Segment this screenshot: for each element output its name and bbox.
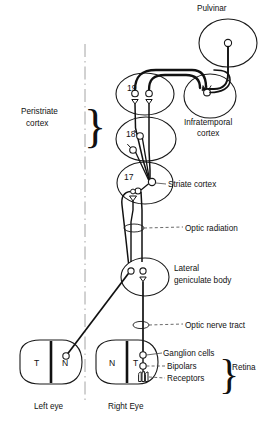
visual-pathway-diagram: Pulvinar Infratemporal cortex Peristriat… <box>0 0 273 434</box>
crossed-optic-fiber-to-left-eye <box>66 273 128 356</box>
ganglion-cells-label: Ganglion cells <box>163 349 214 358</box>
area-17-neuron-b-soma <box>135 188 141 194</box>
ganglion-cell-soma <box>140 352 146 358</box>
lateral-geniculate-label-line2: geniculate body <box>174 276 232 285</box>
retina-brace: } <box>219 351 239 397</box>
area-17-neuron-c-soma <box>131 189 136 194</box>
infratemporal-cortex-outline <box>184 74 236 118</box>
area-19-label: 19 <box>127 83 137 93</box>
lgn-input-terminal <box>140 277 146 282</box>
bipolars-label: Bipolars <box>167 362 197 371</box>
area-19-neuron-b-soma <box>146 90 153 97</box>
area-19-neuron-a-terminal <box>132 100 138 105</box>
area-17-input-terminal <box>130 196 137 201</box>
visual-pathway-svg: Pulvinar Infratemporal cortex Peristriat… <box>0 0 273 434</box>
area-17-neuron-a-soma <box>148 178 155 185</box>
pulvinar-neuron-soma <box>224 39 231 46</box>
infratemporal-cortex-label-line1: Infratemporal <box>184 118 232 127</box>
receptor-cell-3 <box>145 372 148 382</box>
area-19-outline <box>116 73 174 115</box>
area-17-label: 17 <box>124 172 134 182</box>
area-18-label: 18 <box>126 129 136 139</box>
fiber-17-to-19b <box>149 104 150 183</box>
receptor-cell-1 <box>139 372 142 382</box>
peristriate-cortex-label-line1: Peristriate <box>21 107 58 116</box>
striate-cortex-label: Striate cortex <box>168 180 216 189</box>
ganglion-cells-leader <box>146 353 162 355</box>
optic-radiation-label: Optic radiation <box>185 224 238 233</box>
receptors-leader <box>149 377 165 378</box>
optic-radiation-fiber-curved <box>122 192 131 264</box>
left-eye-temporal-label: T <box>34 358 40 368</box>
optic-nerve-tract-cuff <box>133 321 149 328</box>
infratemporal-cortex-label-line2: cortex <box>197 129 219 138</box>
optic-nerve-tract-leader <box>149 324 183 325</box>
right-eye-label: Right Eye <box>108 402 144 411</box>
optic-radiation-leader <box>144 227 183 228</box>
optic-radiation-cuff <box>124 224 144 232</box>
lateral-geniculate-label-line1: Lateral <box>174 264 199 273</box>
area-19-neuron-b-terminal <box>146 100 152 105</box>
pulvinar-label: Pulvinar <box>197 4 227 13</box>
bipolar-cell-soma <box>140 363 146 369</box>
right-eye-temporal-label: T <box>133 358 139 368</box>
receptor-cell-2 <box>142 372 145 382</box>
area-18-neuron-a-soma <box>137 133 144 140</box>
lgn-neuron-a-soma <box>128 268 134 274</box>
area19-to-infratemporal-projection-inner <box>149 75 200 90</box>
left-eye-nasal-label: N <box>62 358 68 368</box>
receptors-label: Receptors <box>167 374 204 383</box>
left-eye-label: Left eye <box>34 402 64 411</box>
lgn-neuron-b-soma <box>140 268 146 274</box>
optic-nerve-tract-label: Optic nerve tract <box>185 321 246 330</box>
area-17-interneuron-link <box>141 184 149 190</box>
area-18-outline <box>116 117 176 161</box>
optic-radiation-fiber-right <box>141 192 142 262</box>
peristriate-brace: } <box>84 101 106 152</box>
pulvinar-axon <box>206 47 228 89</box>
striate-cortex-leader <box>156 183 166 184</box>
right-eye-nasal-label: N <box>109 358 115 368</box>
peristriate-cortex-label-line2: cortex <box>26 119 48 128</box>
